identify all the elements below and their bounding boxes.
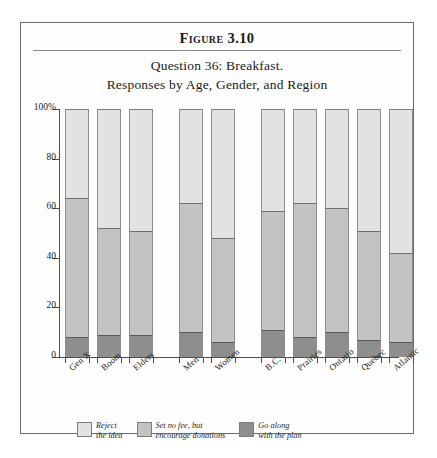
bar-segment bbox=[129, 231, 153, 335]
chart-legend: Rejectthe ideaSet no fee, butencourage d… bbox=[77, 421, 302, 440]
bar-quebec[interactable] bbox=[357, 109, 381, 357]
bar-women[interactable] bbox=[211, 109, 235, 357]
legend-label: Set no fee, butencourage donations bbox=[156, 421, 226, 440]
bar-segment bbox=[211, 238, 235, 342]
bar-segment bbox=[293, 109, 317, 203]
x-axis-tick bbox=[293, 358, 294, 363]
bar-segment bbox=[293, 203, 317, 337]
bar-segment bbox=[261, 330, 285, 357]
x-axis-tick bbox=[65, 358, 66, 363]
bar-segment bbox=[179, 109, 203, 203]
x-axis-tick bbox=[389, 358, 390, 363]
y-axis-tick-label: 80 bbox=[47, 152, 60, 162]
x-axis-tick bbox=[325, 358, 326, 363]
legend-item-reject[interactable]: Rejectthe idea bbox=[77, 421, 123, 440]
x-axis-tick bbox=[179, 358, 180, 363]
bar-segment bbox=[97, 228, 121, 335]
bar-boom[interactable] bbox=[97, 109, 121, 357]
bar-segment bbox=[65, 109, 89, 198]
x-axis-tick bbox=[357, 358, 358, 363]
chart-plot: 020406080100% Gen XBoomEldersMenWomenB.C… bbox=[21, 23, 415, 435]
bar-segment bbox=[389, 109, 413, 253]
bar-b-c[interactable] bbox=[261, 109, 285, 357]
bar-elders[interactable] bbox=[129, 109, 153, 357]
legend-label: Go alongwith the plan bbox=[258, 421, 301, 440]
x-axis-tick bbox=[203, 358, 204, 363]
y-axis-tick-label: 20 bbox=[47, 300, 60, 310]
bar-segment bbox=[97, 109, 121, 228]
bar-segment bbox=[179, 332, 203, 357]
legend-swatch-icon bbox=[239, 422, 254, 437]
legend-swatch-icon bbox=[77, 422, 92, 437]
figure-frame: Figure 3.10 Question 36: Breakfast. Resp… bbox=[20, 22, 414, 434]
bar-segment bbox=[261, 109, 285, 211]
legend-label: Rejectthe idea bbox=[96, 421, 123, 440]
x-axis-tick bbox=[129, 358, 130, 363]
legend-item-set-no-fee[interactable]: Set no fee, butencourage donations bbox=[137, 421, 226, 440]
x-axis-tick bbox=[97, 358, 98, 363]
bar-men[interactable] bbox=[179, 109, 203, 357]
bar-segment bbox=[129, 109, 153, 231]
bar-segment bbox=[325, 109, 349, 208]
bar-segment bbox=[65, 198, 89, 337]
bar-segment bbox=[261, 211, 285, 330]
bar-ontario[interactable] bbox=[325, 109, 349, 357]
bar-gen-x[interactable] bbox=[65, 109, 89, 357]
y-axis-tick-label: 100% bbox=[34, 102, 59, 112]
legend-item-go-along[interactable]: Go alongwith the plan bbox=[239, 421, 301, 440]
bar-segment bbox=[357, 109, 381, 231]
bar-segment bbox=[325, 208, 349, 332]
bar-segment bbox=[179, 203, 203, 332]
y-axis-tick-label: 40 bbox=[47, 251, 60, 261]
y-axis-tick-label: 60 bbox=[47, 201, 60, 211]
bar-segment bbox=[211, 109, 235, 238]
x-axis-tick bbox=[261, 358, 262, 363]
y-axis-tick-label: 0 bbox=[51, 350, 59, 360]
bar-atlantic[interactable] bbox=[389, 109, 413, 357]
bar-prairies[interactable] bbox=[293, 109, 317, 357]
bars-container bbox=[59, 109, 397, 357]
x-axis-tick bbox=[211, 358, 212, 363]
bar-segment bbox=[389, 253, 413, 342]
bar-segment bbox=[357, 231, 381, 340]
x-axis-tick bbox=[285, 358, 286, 363]
legend-swatch-icon bbox=[137, 422, 152, 437]
